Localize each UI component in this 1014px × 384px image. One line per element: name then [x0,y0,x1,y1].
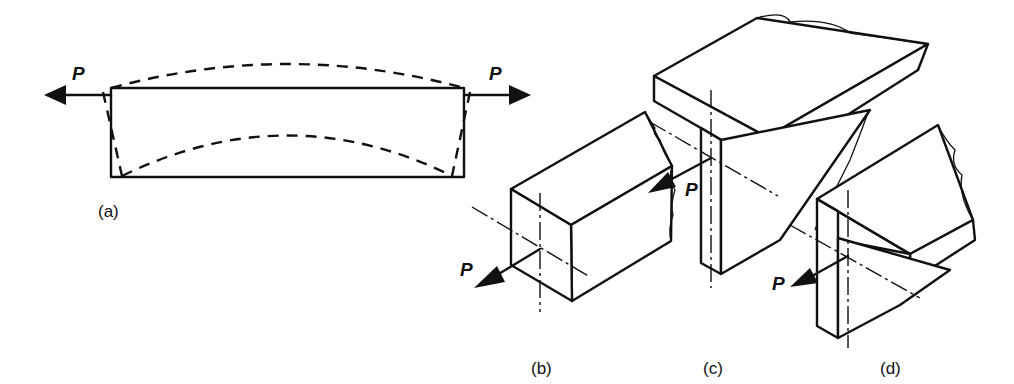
right-arrow-icon [509,85,531,105]
arrow-icon [790,268,818,287]
panel-label-d: (d) [880,359,901,378]
deformed-top-edge [111,64,464,88]
panel-label-b: (b) [531,359,552,378]
arrow-icon [474,266,505,288]
force-label: P [772,273,785,294]
left-arrow-icon [44,85,66,105]
force-label-right: P [489,63,502,84]
diagram-canvas: P P (a) P (b) P (c) [0,0,1014,384]
plate-outline [111,88,464,177]
force-label: P [460,259,473,280]
deformed-left-edge [103,92,122,176]
panel-label-c: (c) [703,359,723,378]
panel-b: P (b) [460,112,675,378]
force-label-left: P [72,63,85,84]
panel-a: P P (a) [44,63,531,221]
deformed-bottom-edge [122,136,452,177]
panel-label-a: (a) [98,202,119,221]
force-label: P [685,179,698,200]
deformed-right-edge [452,92,470,176]
